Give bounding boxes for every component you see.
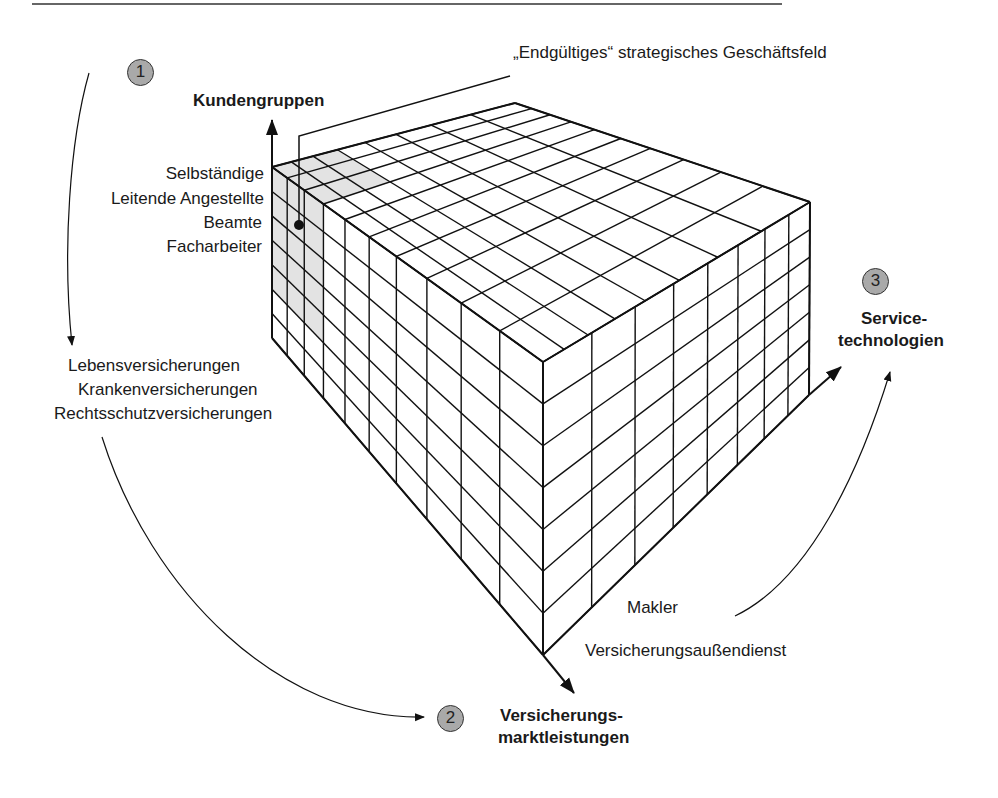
product-item: Lebensversicherungen — [68, 355, 240, 377]
customers-axis-title: Kundengruppen — [193, 90, 324, 112]
step-3-badge: 3 — [862, 268, 889, 295]
customer-item: Facharbeiter — [167, 236, 262, 258]
arc-step1-to-products — [68, 73, 89, 345]
products-axis-arrow — [543, 655, 574, 693]
product-item: Rechtsschutzversicherungen — [54, 403, 272, 425]
product-item: Krankenversicherungen — [78, 379, 258, 401]
technologies-axis-arrow — [809, 367, 841, 395]
customer-item: Selbständige — [166, 163, 264, 185]
arc-products-to-step2 — [102, 437, 424, 717]
technology-item: Makler — [627, 597, 678, 619]
products-axis-title-line1: Versicherungs- — [500, 705, 623, 727]
technology-item: Versicherungsaußendienst — [585, 640, 786, 662]
business-field-callout: „Endgültiges“ strategisches Geschäftsfel… — [513, 42, 827, 64]
callout-leader-line — [299, 76, 510, 225]
technologies-axis-title-line2: technologien — [838, 330, 944, 352]
step-2-badge: 2 — [437, 705, 464, 732]
customer-item: Beamte — [203, 212, 262, 234]
callout-dot — [294, 220, 304, 230]
step-1-badge: 1 — [127, 59, 154, 86]
products-axis-title-line2: marktleistungen — [498, 727, 629, 749]
technologies-axis-title-line1: Service- — [861, 308, 927, 330]
customer-item: Leitende Angestellte — [111, 188, 264, 210]
arc-step2-to-step3 — [735, 372, 890, 616]
